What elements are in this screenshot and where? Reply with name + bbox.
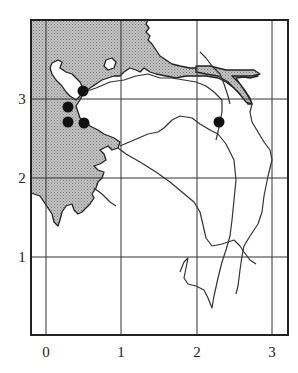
site-marker-1[interactable] — [78, 86, 89, 97]
y-tick-1: 1 — [18, 249, 26, 265]
site-markers — [63, 86, 225, 129]
x-axis-labels: 0 1 2 3 — [42, 344, 276, 360]
site-marker-4[interactable] — [79, 118, 90, 129]
y-axis-labels: 1 2 3 — [18, 91, 26, 265]
x-tick-1: 1 — [117, 344, 125, 360]
site-marker-3[interactable] — [63, 117, 74, 128]
x-tick-2: 2 — [193, 344, 201, 360]
x-tick-0: 0 — [42, 344, 50, 360]
site-marker-5[interactable] — [214, 117, 225, 128]
y-tick-2: 2 — [18, 170, 26, 186]
y-tick-3: 3 — [18, 91, 26, 107]
x-tick-3: 3 — [268, 344, 276, 360]
site-marker-2[interactable] — [63, 102, 74, 113]
land-islet — [104, 58, 116, 70]
map-figure: 0 1 2 3 1 2 3 — [0, 0, 298, 373]
